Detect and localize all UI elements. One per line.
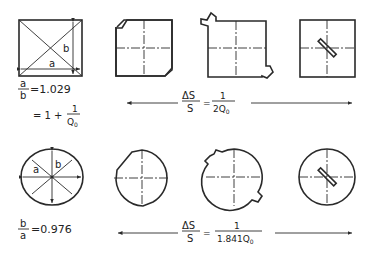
cavity-perturbation-diagram: b a a b =1.029 = 1 + 1 Q0 ΔS S = 1 (0, 0, 370, 257)
svg-text:= 1 +: = 1 + (33, 110, 62, 121)
dimension-b-label: b (55, 159, 61, 170)
square-with-diagonals: b a (19, 20, 82, 76)
dimension-b-label: b (63, 43, 69, 54)
svg-text:2Q0: 2Q0 (213, 104, 230, 115)
svg-text:S: S (187, 233, 193, 244)
dimension-a-label: a (49, 58, 55, 69)
formula-row-2: ΔS S = 1 1.841Q0 (118, 220, 352, 245)
ratio-label-b-over-a: b a =0.976 (18, 218, 72, 241)
svg-text:=: = (203, 98, 211, 108)
svg-text:b: b (20, 90, 26, 101)
circle-flattened (114, 150, 170, 206)
svg-text:1.841Q0: 1.841Q0 (217, 234, 254, 245)
svg-text:Q0: Q0 (67, 117, 78, 128)
svg-text:=1.029: =1.029 (30, 83, 71, 96)
svg-text:=0.976: =0.976 (31, 223, 72, 236)
svg-text:a: a (20, 78, 26, 89)
square-with-slot (300, 20, 355, 77)
svg-text:1: 1 (72, 104, 78, 114)
circle-with-notches (202, 149, 263, 210)
ratio-expansion-label: = 1 + 1 Q0 (33, 104, 80, 128)
circle-with-slot (299, 149, 355, 205)
circle-with-diameters: a b (21, 149, 83, 205)
svg-text:=: = (203, 228, 211, 238)
square-cut-corners (116, 20, 172, 76)
svg-text:S: S (187, 103, 193, 114)
svg-text:ΔS: ΔS (182, 90, 195, 101)
svg-text:a: a (20, 230, 26, 241)
svg-text:ΔS: ΔS (182, 220, 195, 231)
svg-text:b: b (20, 218, 26, 229)
formula-row-1: ΔS S = 1 2Q0 (127, 90, 352, 115)
svg-text:1: 1 (220, 91, 226, 101)
dimension-a-label: a (33, 164, 39, 175)
svg-text:1: 1 (234, 221, 240, 231)
ratio-label-a-over-b: a b =1.029 (18, 78, 71, 101)
square-with-notches (201, 13, 273, 78)
